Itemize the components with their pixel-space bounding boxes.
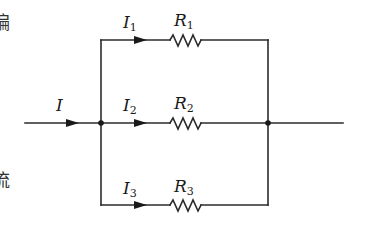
cropped-text-fragment: 偏: [0, 14, 10, 32]
main-current-label: I: [56, 97, 63, 114]
current-symbol: I: [123, 95, 130, 115]
resistor-subscript: 2: [187, 102, 194, 115]
current-symbol: I: [123, 12, 130, 32]
arrow-i3-icon: [134, 201, 147, 209]
resistor-symbol: R: [174, 10, 187, 30]
resistor-r3-label: R3: [174, 178, 194, 197]
arrow-i1-icon: [134, 36, 147, 44]
arrow-main-current-icon: [66, 119, 79, 127]
current-i1-label: I1: [123, 14, 137, 33]
resistor-symbol: R: [174, 176, 187, 196]
current-subscript: 1: [130, 21, 137, 34]
resistor-r3-icon: [170, 200, 201, 211]
current-i3-label: I3: [123, 180, 137, 199]
resistor-symbol: R: [174, 93, 187, 113]
current-subscript: 3: [130, 187, 137, 200]
resistor-r2-icon: [170, 118, 201, 129]
current-symbol: I: [123, 178, 130, 198]
cropped-text-fragment: 流: [0, 172, 10, 190]
branch-3: [101, 200, 268, 211]
current-symbol: I: [56, 95, 63, 115]
branch-2: [101, 118, 268, 129]
current-i2-label: I2: [123, 97, 137, 116]
resistor-r1-icon: [170, 35, 201, 46]
parallel-circuit-diagram: 偏 流 I I1 R1 I2 R2 I3 R3: [0, 0, 366, 232]
right-junction-dot: [265, 120, 271, 126]
resistor-r1-label: R1: [174, 12, 194, 31]
circuit-svg: [0, 0, 366, 232]
branch-1: [101, 35, 268, 46]
current-subscript: 2: [130, 104, 137, 117]
resistor-r2-label: R2: [174, 95, 194, 114]
arrow-i2-icon: [134, 119, 147, 127]
left-junction-dot: [98, 120, 104, 126]
resistor-subscript: 3: [187, 185, 194, 198]
resistor-subscript: 1: [187, 19, 194, 32]
